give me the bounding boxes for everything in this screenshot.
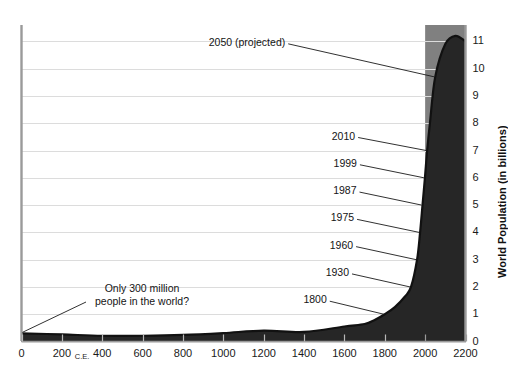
y-tick-label: 5 [473,198,479,210]
y-tick-label: 7 [473,144,479,156]
leader-line [357,219,419,232]
annotation-label-2010: 2010 [225,130,355,142]
y-tick-label: 3 [473,253,479,265]
annotation-label-1999: 1999 [227,157,357,169]
callout-line-1: Only 300 million [62,282,222,295]
y-tick-label: 4 [473,225,479,237]
leader-line [360,192,422,205]
annotation-label-1960: 1960 [223,239,353,251]
leader-line [288,44,434,77]
y-tick-label: 8 [473,116,479,128]
x-tick-label: 2200 [441,347,491,359]
annotation-label-1930: 1930 [219,266,349,278]
x-axis-era-label: C.E. [75,352,90,361]
y-axis-title: World Population (in billions) [496,125,508,278]
y-tick-label: 11 [473,34,484,46]
leader-line [360,165,424,178]
y-tick-label: 9 [473,89,479,101]
leader-line [358,138,426,151]
callout-note: Only 300 million people in the world? [62,282,222,308]
leader-line [356,247,416,260]
annotation-label-2050-projected-: 2050 (projected) [155,36,285,48]
y-tick-label: 1 [473,307,479,319]
y-tick-label: 0 [473,335,479,347]
y-tick-label: 2 [473,280,479,292]
annotation-label-1987: 1987 [227,184,357,196]
callout-line-2: people in the world? [62,295,222,308]
y-tick-label: 10 [473,62,485,74]
leader-line [330,301,384,314]
leader-line [352,274,410,287]
y-tick-label: 6 [473,171,479,183]
annotation-label-1975: 1975 [224,211,354,223]
